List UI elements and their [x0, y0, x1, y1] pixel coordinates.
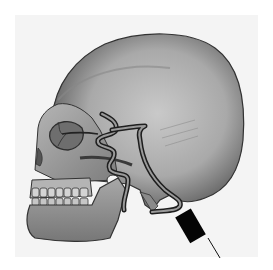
skull-illustration	[0, 0, 273, 270]
orbit	[50, 122, 84, 150]
